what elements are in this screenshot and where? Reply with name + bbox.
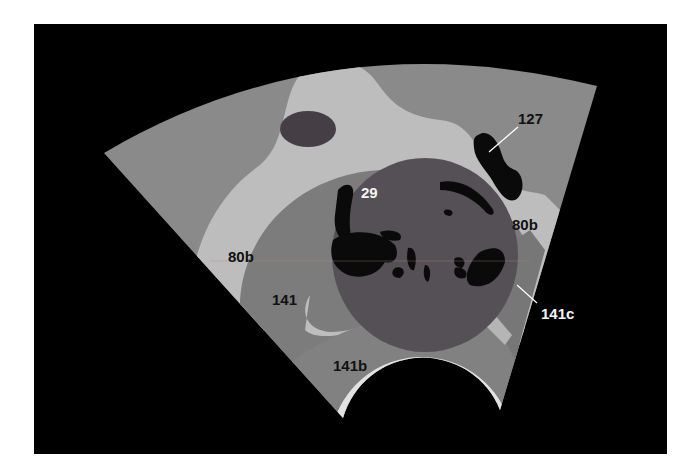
label-141: 141: [272, 291, 297, 308]
label-29: 29: [361, 184, 378, 201]
label-80b-right: 80b: [512, 216, 538, 233]
label-141c: 141c: [541, 305, 574, 322]
label-127: 127: [518, 110, 543, 127]
label-80b-left: 80b: [228, 248, 254, 265]
cyst-oval: [280, 111, 336, 147]
ultrasound-diagram: 127 29 80b 80b 141 141b 141c: [0, 0, 690, 471]
label-141b: 141b: [333, 357, 367, 374]
